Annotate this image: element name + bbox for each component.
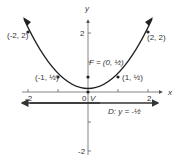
point-1-half <box>116 75 119 78</box>
y-axis-label: y <box>84 4 90 13</box>
y-tick-label-2: 2 <box>80 29 85 38</box>
origin-label: 0 <box>82 94 87 103</box>
point-label-1-half: (1, ½) <box>122 73 143 82</box>
point-label-2-2: (2, 2) <box>147 33 166 42</box>
x-axis-label: x <box>167 88 173 97</box>
point-label-neg1-half: (-1, ½) <box>35 73 59 82</box>
vertex-label: V <box>90 94 96 103</box>
parabola-diagram: y x 2 -2 -2 2 0 V (-2, 2) (-1, ½) (1, ½)… <box>0 0 179 159</box>
directrix-label: D: y = -½ <box>108 107 141 116</box>
x-tick-label-2: 2 <box>147 94 152 103</box>
focus-label: F = (0, ½) <box>89 58 124 67</box>
y-tick-label-neg2: -2 <box>78 147 86 156</box>
focus-point <box>86 75 89 78</box>
point-label-neg2-2: (-2, 2) <box>7 31 29 40</box>
x-tick-label-neg2: -2 <box>25 94 33 103</box>
